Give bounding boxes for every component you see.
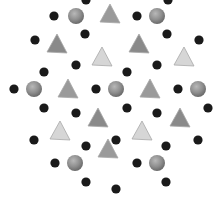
black-dot xyxy=(91,84,100,93)
black-dot xyxy=(161,177,170,186)
dot-layer xyxy=(9,0,212,194)
triangle-light xyxy=(92,47,112,66)
black-dot xyxy=(71,108,80,117)
black-dot xyxy=(50,158,59,167)
triangle-dark xyxy=(170,108,190,127)
black-dot xyxy=(193,135,202,144)
triangle-dark xyxy=(47,34,67,53)
triangle-light xyxy=(174,47,194,66)
triangle-light xyxy=(132,121,152,140)
black-dot xyxy=(122,103,131,112)
black-dot xyxy=(80,29,89,38)
black-dot xyxy=(203,103,212,112)
gray-sphere xyxy=(26,81,42,97)
black-dot xyxy=(29,135,38,144)
black-dot xyxy=(152,108,161,117)
triangle-layer xyxy=(47,4,194,158)
black-dot xyxy=(122,67,131,76)
black-dot xyxy=(81,0,90,5)
black-dot xyxy=(161,141,170,150)
triangle-dark xyxy=(129,34,149,53)
black-dot xyxy=(30,35,39,44)
black-dot xyxy=(163,0,172,5)
gray-sphere xyxy=(149,8,165,24)
black-dot xyxy=(194,35,203,44)
lattice-scene xyxy=(0,0,216,206)
triangle-dark xyxy=(88,108,108,127)
black-dot xyxy=(132,11,141,20)
black-dot xyxy=(39,103,48,112)
gray-sphere xyxy=(149,155,165,171)
triangle-mid xyxy=(100,4,120,23)
triangle-mid xyxy=(58,79,78,98)
black-dot xyxy=(9,84,18,93)
black-dot xyxy=(49,11,58,20)
black-dot xyxy=(81,177,90,186)
black-dot xyxy=(152,60,161,69)
gray-sphere xyxy=(190,81,206,97)
black-dot xyxy=(132,158,141,167)
black-dot xyxy=(111,184,120,193)
gray-sphere xyxy=(67,155,83,171)
triangle-mid xyxy=(140,79,160,98)
black-dot xyxy=(71,60,80,69)
black-dot xyxy=(81,141,90,150)
black-dot xyxy=(162,29,171,38)
black-dot xyxy=(39,67,48,76)
black-dot xyxy=(173,84,182,93)
triangle-light xyxy=(50,121,70,140)
gray-sphere xyxy=(68,8,84,24)
black-dot xyxy=(111,135,120,144)
gray-sphere xyxy=(108,81,124,97)
